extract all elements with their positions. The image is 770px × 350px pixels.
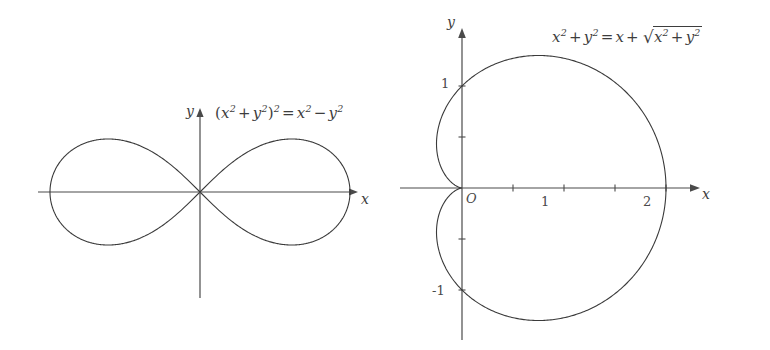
lemniscate-figure <box>0 0 400 350</box>
origin-label: O <box>466 191 477 206</box>
y-tick-label-minus-1: -1 <box>432 283 445 298</box>
equation-x: x <box>552 28 561 46</box>
y-tick-label-1: 1 <box>441 76 449 91</box>
cardioid-axes <box>400 28 700 340</box>
lemniscate-y-axis-label: y <box>186 103 194 119</box>
radicand-x-exponent: 2 <box>663 27 669 38</box>
cardioid-plot <box>400 0 770 350</box>
equation-minus: − <box>312 104 329 122</box>
equation-rhs-y: y <box>329 104 338 122</box>
equation-equals: = <box>599 28 616 46</box>
square-root-icon: √x2+y2 <box>641 26 702 46</box>
equation-rhs-x: x <box>615 28 624 46</box>
equation-rhs-y-exponent: 2 <box>337 103 343 114</box>
equation-plus: + <box>567 28 584 46</box>
radicand: x2+y2 <box>653 26 702 46</box>
radicand-y: y <box>686 28 695 46</box>
x-tick-label-1: 1 <box>541 194 549 209</box>
equation-plus-2: + <box>624 28 641 46</box>
equation-equals: = <box>280 104 297 122</box>
lemniscate-plot <box>0 0 400 350</box>
cardioid-figure <box>400 0 770 350</box>
x-axis-arrowhead <box>690 184 700 192</box>
cardioid-equation: x2+y2=x+√x2+y2 <box>552 26 702 46</box>
lemniscate-axes <box>38 108 358 298</box>
x-tick-label-2: 2 <box>643 194 651 209</box>
equation-x-exponent: 2 <box>561 27 567 38</box>
equation-x: x <box>221 104 230 122</box>
y-axis-arrowhead <box>196 108 203 117</box>
equation-y-exponent: 2 <box>592 27 598 38</box>
equation-plus: + <box>236 104 253 122</box>
cardioid-x-axis-label: x <box>702 186 710 202</box>
equation-rhs-x-exponent: 2 <box>305 103 311 114</box>
radicand-plus: + <box>669 28 686 46</box>
lemniscate-equation: (x2+y2)2=x2−y2 <box>215 103 343 122</box>
lemniscate-x-axis-label: x <box>361 191 369 207</box>
figure-pair-canvas: (x2+y2)2=x2−y2 y x x2+y2=x+√x2+y2 y x O … <box>0 0 770 350</box>
y-axis-arrowhead <box>458 28 466 38</box>
radical-sign: √ <box>643 27 654 47</box>
radicand-y-exponent: 2 <box>694 27 700 38</box>
cardioid-y-axis-label: y <box>447 14 455 30</box>
radicand-x: x <box>654 28 663 46</box>
